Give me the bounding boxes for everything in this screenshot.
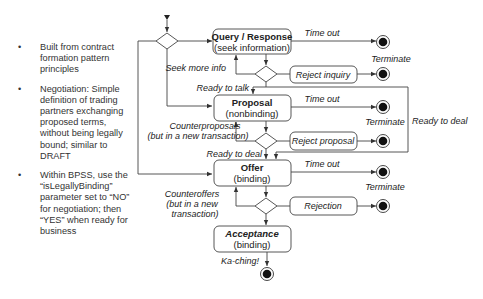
label-terminate: Terminate: [365, 117, 405, 127]
state-query-title: Query / Response: [212, 31, 293, 42]
label-seek-more-info: Seek more info: [165, 63, 226, 73]
label-ready-to-talk: Ready to talk: [196, 83, 249, 93]
label-ready-to-deal: Ready to deal: [206, 149, 263, 159]
arrow-seek-more-info: [236, 55, 255, 74]
label-counteroffers-note-1: (but in a new: [166, 199, 218, 209]
decision-diamond-proposal: [255, 133, 277, 149]
reject-inquiry-label: Reject inquiry: [296, 70, 351, 80]
label-counteroffers-note-2: transaction): [171, 209, 218, 219]
label-time-out: Time out: [305, 159, 340, 169]
final-state-icon: [261, 268, 274, 281]
label-terminate: Terminate: [365, 182, 405, 192]
rejection-label: Rejection: [304, 201, 342, 211]
start-marker: [164, 15, 170, 20]
arrow-counteroffers: [236, 187, 255, 206]
decision-diamond-start: [156, 33, 178, 49]
state-acceptance-subtitle: (binding): [234, 239, 271, 250]
terminate-icon: [377, 166, 390, 179]
terminate-icon: [377, 101, 390, 114]
state-diagram: Query / Response (seek information) Time…: [0, 0, 483, 299]
label-counterproposals-note: (but in a new transaction): [147, 131, 248, 141]
terminate-icon: [377, 36, 390, 49]
label-counteroffers: Counteroffers: [165, 189, 220, 199]
state-query-subtitle: (seek information): [214, 42, 290, 53]
state-acceptance-title: Acceptance: [224, 228, 279, 239]
decision-diamond-offer: [255, 198, 277, 214]
arrow-to-offer: [138, 41, 212, 174]
reject-proposal-label: Reject proposal: [292, 136, 356, 146]
terminate-icon: [377, 135, 390, 148]
state-offer-subtitle: (binding): [234, 173, 271, 184]
arrow-to-proposal: [167, 49, 212, 106]
label-time-out: Time out: [305, 28, 340, 38]
label-ka-ching: Ka-ching!: [221, 256, 260, 266]
terminate-icon: [377, 68, 390, 81]
label-counterproposals: Counterproposals: [169, 121, 241, 131]
decision-diamond-query: [255, 66, 277, 82]
state-proposal-subtitle: (nonbinding): [226, 108, 279, 119]
label-time-out: Time out: [305, 94, 340, 104]
terminate-icon: [377, 200, 390, 213]
arrow-ready-to-talk: [253, 82, 266, 94]
label-ready-to-deal-right: Ready to deal: [412, 116, 469, 126]
state-proposal-title: Proposal: [232, 97, 273, 108]
label-terminate: Terminate: [371, 54, 411, 64]
state-offer-title: Offer: [241, 162, 264, 173]
